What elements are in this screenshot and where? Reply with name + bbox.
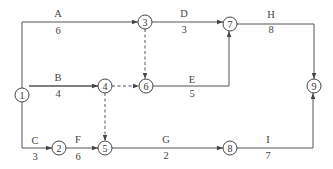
activity-g-duration: 2	[163, 150, 168, 161]
node-4-label: 4	[103, 81, 108, 92]
arrow-a	[22, 22, 138, 88]
node-4: 4	[98, 79, 112, 93]
node-5: 5	[98, 141, 112, 155]
activity-c-name: C	[31, 135, 38, 146]
activity-i-duration: 7	[265, 150, 270, 161]
node-3-label: 3	[143, 17, 148, 28]
activity-h-duration: 8	[268, 24, 273, 35]
activity-b-name: B	[54, 72, 61, 83]
node-2-label: 2	[57, 143, 62, 154]
arrow-i	[237, 93, 313, 148]
node-7: 7	[223, 17, 237, 31]
node-3: 3	[138, 15, 152, 29]
node-7-label: 7	[228, 19, 233, 30]
activity-c-duration: 3	[32, 151, 37, 162]
activity-b-duration: 4	[55, 88, 61, 99]
activity-a-name: A	[54, 8, 62, 19]
activity-a-duration: 6	[55, 25, 60, 36]
activity-i-name: I	[266, 134, 270, 145]
activity-e-duration: 5	[189, 88, 194, 99]
node-8: 8	[223, 141, 237, 155]
node-5-label: 5	[103, 143, 108, 154]
network-diagram: A 6 B 4 C 3 D 3 E 5 F 6 G 2 H 8 I 7 1 2 …	[0, 0, 333, 169]
node-8-label: 8	[228, 143, 233, 154]
node-9-label: 9	[312, 81, 317, 92]
node-6-label: 6	[144, 81, 149, 92]
activity-f-name: F	[75, 134, 81, 145]
activity-h-name: H	[267, 9, 275, 20]
node-1: 1	[15, 88, 29, 102]
activity-g-name: G	[162, 134, 170, 145]
activity-d-duration: 3	[181, 24, 186, 35]
node-6: 6	[139, 79, 153, 93]
activity-d-name: D	[180, 8, 188, 19]
activity-f-duration: 6	[75, 151, 80, 162]
node-2: 2	[52, 141, 66, 155]
node-1-label: 1	[20, 90, 25, 101]
activity-e-name: E	[189, 74, 195, 85]
node-9: 9	[307, 79, 321, 93]
arrow-h	[237, 24, 314, 79]
